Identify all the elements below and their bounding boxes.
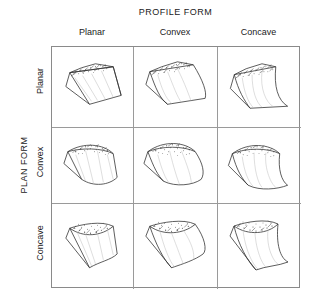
cell-planar-planar [52,47,134,128]
column-header-convex: Convex [133,27,217,37]
cell-concave-concave [218,204,301,289]
cell-concave-convex [134,204,218,289]
row-header-planar: Planar [35,41,45,121]
cell-planar-concave [218,47,301,128]
cell-convex-planar [52,128,134,204]
plan-form-axis-title: PLAN FORM [19,105,29,225]
cell-convex-concave [218,128,301,204]
cell-convex-convex [134,128,218,204]
profile-form-axis-title: PROFILE FORM [51,7,300,17]
column-header-concave: Concave [217,27,300,37]
column-header-planar: Planar [51,27,133,37]
cell-concave-planar [52,204,134,289]
row-header-convex: Convex [35,122,45,202]
cell-planar-convex [134,47,218,128]
landform-classification-figure: PROFILE FORM Planar Convex Concave PLAN … [0,0,312,305]
row-header-concave: Concave [35,203,45,283]
matrix-grid [51,46,300,288]
